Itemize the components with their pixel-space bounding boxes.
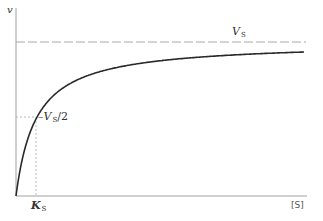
vs-label: VS: [232, 26, 246, 39]
x-axis-label: [S]: [291, 201, 304, 210]
ks-label: KS: [31, 200, 46, 213]
vs-label-main: V: [232, 25, 240, 38]
y-axis-label: v: [7, 5, 13, 15]
michaelis-menten-curve: [16, 52, 304, 196]
ks-label-main: K: [31, 199, 41, 212]
ks-label-sub: S: [42, 205, 47, 213]
vs-half-label-suffix: /2: [57, 110, 68, 123]
vs-label-sub: S: [241, 31, 246, 39]
vs-half-label: –VS/2: [38, 111, 68, 124]
vs-half-label-main: –V: [38, 110, 51, 123]
